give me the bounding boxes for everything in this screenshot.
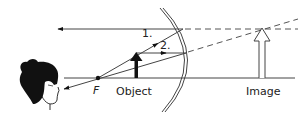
object-label: Object: [116, 85, 153, 98]
focal-point: [96, 76, 100, 80]
ray-diagram: 1. 2. F Object Image: [0, 0, 305, 123]
image-label: Image: [246, 85, 281, 98]
ray-1-label: 1.: [142, 27, 153, 40]
ray-2: [64, 53, 186, 89]
object-arrow: [130, 52, 143, 78]
focal-point-label: F: [93, 84, 100, 97]
ray-2-label: 2.: [160, 39, 171, 52]
virtual-ray-extensions: [185, 19, 298, 52]
viewer-head-icon: [20, 59, 59, 110]
image-arrow: [254, 28, 270, 78]
concave-mirror: [160, 8, 188, 112]
